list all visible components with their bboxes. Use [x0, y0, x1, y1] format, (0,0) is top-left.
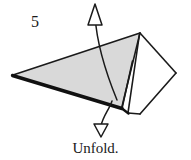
- unfold-arrow-up-head: [88, 4, 102, 25]
- unfold-arrow-down-head: [94, 124, 108, 137]
- origami-figure: 5 Unfold.: [0, 0, 191, 160]
- unfold-arrow-down: [94, 101, 112, 137]
- large-gray-triangle: [13, 33, 140, 108]
- origami-diagram: [0, 0, 191, 160]
- kite-bottom-left-edge: [128, 113, 140, 114]
- step-number: 5: [31, 13, 39, 31]
- figure-caption: Unfold.: [0, 139, 191, 157]
